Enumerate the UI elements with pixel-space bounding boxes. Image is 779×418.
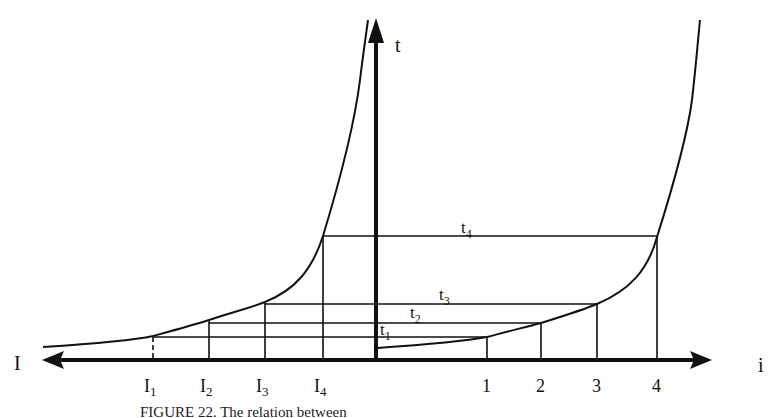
- right-tick-labels: 1 2 3 4: [482, 376, 661, 396]
- tick-label-I2: I2: [200, 376, 213, 399]
- tick-label-3: 3: [592, 376, 601, 396]
- level-lines: [153, 236, 657, 337]
- tick-label-4: 4: [652, 376, 661, 396]
- left-tick-labels: I1 I2 I3 I4: [144, 376, 327, 399]
- level-label-t4: t4: [461, 218, 472, 241]
- right-drop-lines: [487, 237, 657, 358]
- tick-label-I1: I1: [144, 376, 157, 399]
- right-curve: [377, 20, 700, 348]
- tick-label-I3: I3: [256, 376, 269, 399]
- up-arrowhead-icon: [368, 18, 384, 43]
- diagram-canvas: t I i t1 t2 t3 t4 I1 I2 I3 I4 1 2 3 4: [0, 0, 779, 418]
- i-axis-label: i: [758, 354, 764, 376]
- t-axis-label: t: [395, 34, 401, 56]
- tick-label-2: 2: [536, 376, 545, 396]
- tick-label-1: 1: [482, 376, 491, 396]
- figure-caption: FIGURE 22. The relation between: [140, 404, 700, 418]
- tick-label-I4: I4: [314, 376, 327, 399]
- left-drop-lines: [153, 236, 323, 358]
- left-curve: [43, 20, 368, 347]
- I-axis-label: I: [14, 352, 21, 374]
- vertical-axis: [368, 18, 384, 360]
